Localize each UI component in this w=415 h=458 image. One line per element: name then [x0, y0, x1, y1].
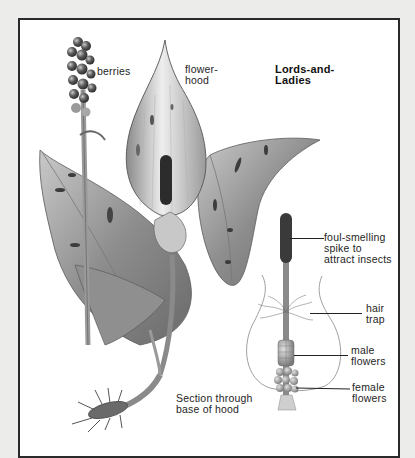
label-male-flowers: male flowers	[351, 345, 386, 367]
leader-spike	[290, 238, 324, 239]
male-flowers-cluster	[278, 340, 294, 366]
label-flower-hood: flower- hood	[185, 64, 218, 86]
leader-male-flowers	[294, 355, 348, 356]
section-caption: Section through base of hood	[176, 393, 253, 415]
root-tuber	[72, 388, 129, 432]
label-spike: foul-smelling spike to attract insects	[324, 232, 392, 265]
label-hair-trap: hair trap	[366, 303, 385, 325]
female-flowers-cluster	[274, 367, 299, 393]
label-female-flowers: female flowers	[352, 382, 387, 404]
leader-hair-trap	[310, 313, 362, 314]
right-leaf	[198, 138, 320, 285]
figure-title: Lords-and- Ladies	[275, 64, 334, 86]
spadix	[160, 155, 172, 205]
label-berries: berries	[97, 66, 131, 77]
